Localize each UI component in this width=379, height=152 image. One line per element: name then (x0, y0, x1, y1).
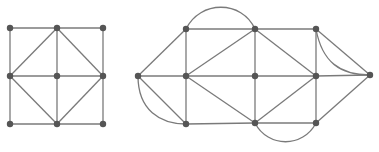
vertex (252, 120, 258, 126)
vertex (367, 72, 373, 78)
vertex (252, 26, 258, 32)
edge (57, 28, 103, 76)
edge (255, 76, 316, 123)
graph-diagram (0, 0, 379, 152)
curved-edge (186, 7, 255, 29)
vertex (183, 73, 189, 79)
edge (186, 123, 255, 124)
vertex (54, 121, 60, 127)
edge (10, 76, 57, 124)
vertex (54, 25, 60, 31)
edge (186, 76, 255, 123)
vertex (100, 25, 106, 31)
vertex (313, 26, 319, 32)
vertex (7, 121, 13, 127)
edge (186, 29, 255, 76)
vertex (54, 73, 60, 79)
vertex (7, 73, 13, 79)
edge (138, 29, 186, 76)
left-graph (7, 25, 106, 127)
vertex (183, 121, 189, 127)
edge (10, 28, 57, 76)
edge (255, 29, 316, 76)
vertex (100, 73, 106, 79)
vertex (183, 26, 189, 32)
vertex (100, 121, 106, 127)
vertex (313, 120, 319, 126)
curved-edge (255, 123, 316, 142)
edge (316, 75, 370, 123)
vertex (252, 73, 258, 79)
vertex (7, 25, 13, 31)
vertex (313, 73, 319, 79)
vertex (135, 73, 141, 79)
edge (57, 76, 103, 124)
edge (138, 76, 186, 124)
right-graph (135, 7, 373, 142)
